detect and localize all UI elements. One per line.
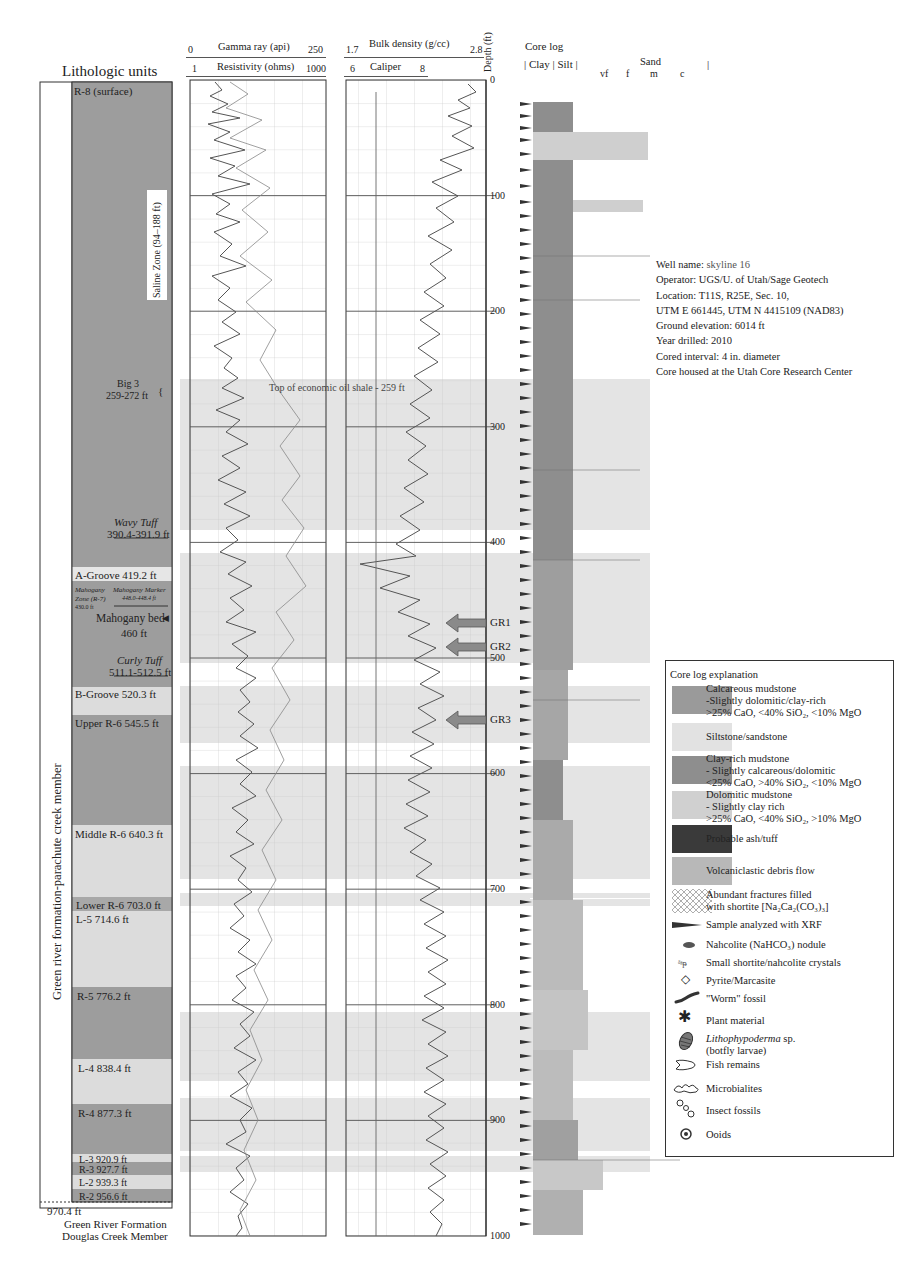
legend-worm: "Worm" fossil <box>706 993 766 1005</box>
unit-l5: L-5 714.6 ft <box>76 913 129 925</box>
base-depth: 970.4 ft <box>47 1205 81 1217</box>
unit-mahogany-marker-range: 448.0-448.4 ft <box>122 595 156 602</box>
plant-material-icon: ✱ <box>678 1011 691 1023</box>
depth-tick-300: 300 <box>490 421 505 432</box>
well-info-line: Operator: UGS/U. of Utah/Sage Geotech <box>656 272 852 287</box>
unit-a-groove: A-Groove 419.2 ft <box>75 569 157 581</box>
legend-insect: Insect fossils <box>706 1105 761 1117</box>
botfly-larvae-icon <box>672 1031 706 1051</box>
big3-bracket-icon: { <box>158 385 163 397</box>
well-info-line: Location: T11S, R25E, Sec. 10, <box>656 288 852 303</box>
unit-curly-tuff: Curly Tuff <box>117 654 162 666</box>
pyrite-icon: ◇ <box>681 973 690 985</box>
mahogany-bed-pointer-icon: ◀ <box>162 612 169 624</box>
depth-tick-700: 700 <box>490 883 505 894</box>
depth-tick-100: 100 <box>490 190 505 201</box>
formation-label: Green river formation-parachute creek me… <box>50 763 65 1000</box>
legend-plant: Plant material <box>706 1015 765 1027</box>
legend-siltstone: Siltstone/sandstone <box>706 731 787 743</box>
microbialites-icon <box>672 1081 706 1095</box>
unit-r3: R-3 927.7 ft <box>79 1165 128 1175</box>
legend-ooids: Ooids <box>706 1129 731 1141</box>
unit-r5: R-5 776.2 ft <box>77 990 130 1002</box>
legend-calcareous-mudstone: Calcareous mudstone-Slightly dolomitic/c… <box>706 683 861 719</box>
unit-mahogany-bed: Mahogany bed <box>96 612 165 624</box>
unit-l2: L-2 939.3 ft <box>79 1178 127 1188</box>
legend-fractures: Abundant fractures filledwith shortite [… <box>706 889 829 913</box>
unit-mahogany-bed-depth: 460 ft <box>121 627 147 639</box>
gr2-label: GR2 <box>490 640 511 652</box>
ooids-icon <box>672 1127 706 1141</box>
unit-mahogany-zone-b: Zone (R-7) <box>75 595 106 603</box>
insect-fossils-icon <box>672 1099 706 1119</box>
legend-botfly: Lithophypoderma sp.(botfly larvae) <box>706 1033 795 1057</box>
gr1-label: GR1 <box>490 616 511 628</box>
depth-tick-400: 400 <box>490 536 505 547</box>
well-info-line: Core housed at the Utah Core Research Ce… <box>656 364 852 379</box>
well-info-line: Cored interval: 4 in. diameter <box>656 349 852 364</box>
legend-shortite-crystals: Small shortite/nahcolite crystals <box>706 957 841 969</box>
base-member: Douglas Creek Member <box>62 1230 168 1242</box>
xrf-sample-icon <box>672 920 706 930</box>
legend-pyrite: Pyrite/Marcasite <box>706 975 775 987</box>
legend-nahcolite: Nahcolite (NaHCO₃) nodule <box>706 939 826 951</box>
depth-tick-1000: 1000 <box>490 1230 510 1241</box>
unit-curly-tuff-range: 511.1-512.5 ft <box>109 666 171 678</box>
unit-upper-r6: Upper R-6 545.5 ft <box>75 717 159 729</box>
depth-tick-900: 900 <box>490 1114 505 1125</box>
unit-middle-r6: Middle R-6 640.3 ft <box>75 828 163 840</box>
well-info-line: Ground elevation: 6014 ft <box>656 318 852 333</box>
well-info-line: UTM E 661445, UTM N 4415109 (NAD83) <box>656 303 852 318</box>
worm-fossil-icon <box>672 991 706 1005</box>
legend-ash-tuff: Probable ash/tuff <box>706 833 778 845</box>
unit-r8: R-8 (surface) <box>74 85 132 97</box>
legend-clay-rich-mudstone: Clay-rich mudstone - Slightly calcareous… <box>706 753 861 789</box>
legend-xrf: Sample analyzed with XRF <box>706 919 822 931</box>
saline-zone-label: Saline Zone (94–188 ft) <box>151 202 163 298</box>
unit-wavy-tuff-range: 390.4-391.9 ft <box>107 528 170 540</box>
depth-tick-0: 0 <box>490 74 495 85</box>
nahcolite-nodule-icon <box>672 940 706 950</box>
unit-big3: Big 3 <box>117 378 139 390</box>
unit-l4: L-4 838.4 ft <box>78 1062 131 1074</box>
unit-mahogany-zone-depth: 430.0 ft <box>75 604 94 611</box>
unit-r4: R-4 877.3 ft <box>78 1107 131 1119</box>
base-formation: Green River Formation <box>64 1218 167 1230</box>
legend-microbialites: Microbialites <box>706 1083 762 1095</box>
legend-title: Core log explanation <box>670 669 758 681</box>
fish-remains-icon <box>672 1059 706 1071</box>
shortite-crystals-icon: ᵟᶳᵽ <box>678 957 687 969</box>
legend-fish: Fish remains <box>706 1059 760 1071</box>
unit-mahogany-zone: Mahogany <box>75 586 105 594</box>
gr3-label: GR3 <box>490 713 511 725</box>
depth-tick-600: 600 <box>490 767 505 778</box>
depth-tick-200: 200 <box>490 305 505 316</box>
legend-debris-flow: Volcaniclastic debris flow <box>706 865 815 877</box>
legend-dolomitic-mudstone: Dolomitic mudstone - Slightly clay rich>… <box>706 789 861 825</box>
unit-lower-r6: Lower R-6 703.0 ft <box>76 899 161 911</box>
top-oil-shale-annotation: Top of economic oil shale - 259 ft <box>269 382 405 393</box>
well-info: Well name: skyline 16 Operator: UGS/U. o… <box>656 257 852 379</box>
well-info-line: Well name: skyline 16 <box>656 257 852 272</box>
depth-tick-800: 800 <box>490 999 505 1010</box>
unit-big3-range: 259-272 ft <box>106 390 148 402</box>
unit-r2: R-2 956.6 ft <box>79 1192 128 1202</box>
well-info-line: Year drilled: 2010 <box>656 333 852 348</box>
unit-mahogany-marker: Mahogany Marker <box>113 586 166 594</box>
unit-wavy-tuff: Wavy Tuff <box>114 516 157 528</box>
depth-tick-500: 500 <box>490 652 505 663</box>
core-log-legend: Core log explanation Calcareous mudstone… <box>665 660 894 1157</box>
unit-b-groove: B-Groove 520.3 ft <box>75 688 156 700</box>
